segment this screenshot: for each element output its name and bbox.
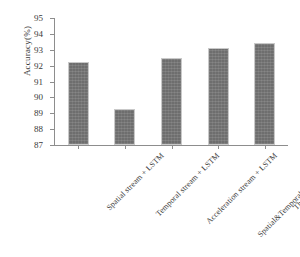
y-tick-label: 95 bbox=[34, 13, 43, 23]
x-tick bbox=[125, 145, 126, 149]
x-tick-label: Spatial stream + LSTM bbox=[105, 151, 166, 212]
y-tick-label: 94 bbox=[34, 29, 43, 39]
x-tick bbox=[172, 145, 173, 149]
x-axis-labels: Spatial stream + LSTMTemporal stream + L… bbox=[55, 18, 288, 145]
y-tick-label: 87 bbox=[34, 140, 43, 150]
y-tick-label: 92 bbox=[34, 61, 43, 71]
x-tick bbox=[78, 145, 79, 149]
y-axis-title: Accuracy(%) bbox=[22, 0, 32, 106]
y-tick-label: 90 bbox=[34, 92, 43, 102]
x-tick bbox=[218, 145, 219, 149]
y-tick-label: 93 bbox=[34, 45, 43, 55]
x-tick-label: Three streams + LSTM bbox=[291, 151, 300, 212]
x-tick bbox=[265, 145, 266, 149]
y-tick: 87 bbox=[50, 145, 55, 146]
y-tick-label: 91 bbox=[34, 77, 43, 87]
y-tick-label: 89 bbox=[34, 108, 43, 118]
bar-chart: Accuracy(%) 878889909192939495 Spatial s… bbox=[0, 0, 300, 257]
x-tick-label: Temporal stream + LSTM bbox=[154, 151, 221, 218]
y-tick-label: 88 bbox=[34, 124, 43, 134]
